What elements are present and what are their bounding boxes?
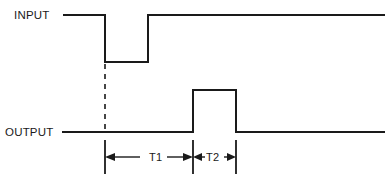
interval-t1-group: T1 (105, 151, 193, 163)
interval-t2-label: T2 (206, 151, 219, 163)
input-signal-label: INPUT (14, 9, 50, 21)
interval-t1-label: T1 (149, 151, 162, 163)
t2-left-arrow-icon (193, 153, 202, 161)
t1-left-arrow-icon (105, 153, 115, 161)
t2-right-arrow-icon (227, 153, 236, 161)
interval-t2-group: T2 (193, 151, 236, 163)
input-signal-group: INPUT (14, 9, 385, 62)
output-signal-label: OUTPUT (5, 126, 53, 138)
timing-diagram-canvas: INPUT OUTPUT T1 (0, 0, 391, 183)
t1-right-arrow-icon (183, 153, 193, 161)
output-signal-group: OUTPUT (5, 90, 385, 138)
output-waveform-path (62, 90, 385, 132)
timing-diagram-figure: INPUT OUTPUT T1 (0, 0, 391, 183)
input-waveform-path (63, 15, 385, 62)
